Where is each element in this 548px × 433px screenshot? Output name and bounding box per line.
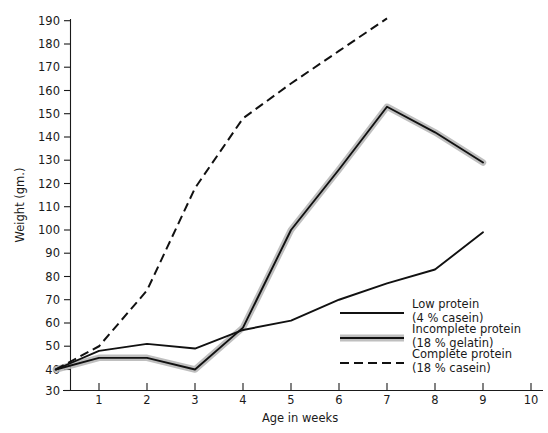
y-tick-160: 160 [38,84,60,98]
legend-label-low-protein: Low protein [412,297,479,311]
y-tick-180: 180 [38,37,60,51]
x-tick-5: 5 [287,393,294,407]
y-tick-110: 110 [38,200,60,214]
legend-label-incomplete-protein: Incomplete protein [412,322,521,336]
y-tick-60: 60 [45,316,60,330]
x-tick-8: 8 [431,393,438,407]
y-tick-140: 140 [38,130,60,144]
y-axis-ticks [64,21,71,391]
x-tick-1: 1 [95,393,102,407]
x-axis-title: Age in weeks [262,411,338,425]
x-tick-2: 2 [143,393,150,407]
y-tick-80: 80 [45,270,60,284]
x-axis-tick-labels: 1 2 3 4 5 6 7 8 9 10 [95,393,538,407]
y-tick-50: 50 [45,339,60,353]
x-tick-9: 9 [479,393,486,407]
y-axis-title: Weight (gm.) [13,168,27,243]
chart-canvas: 190 180 170 160 150 140 130 120 110 100 … [0,0,548,433]
y-tick-90: 90 [45,246,60,260]
y-tick-150: 150 [38,107,60,121]
y-tick-30: 30 [45,384,60,398]
chart-legend: Low protein (4 % casein) Incomplete prot… [340,297,521,375]
growth-curve-chart: 190 180 170 160 150 140 130 120 110 100 … [0,0,548,433]
legend-label-complete-protein: Complete protein [412,347,512,361]
series-complete-protein-line [56,18,387,369]
y-axis-tick-labels: 190 180 170 160 150 140 130 120 110 100 … [38,14,60,398]
y-tick-130: 130 [38,153,60,167]
y-tick-170: 170 [38,60,60,74]
legend-sublabel-complete-protein: (18 % casein) [412,361,491,375]
x-tick-6: 6 [335,393,342,407]
y-tick-120: 120 [38,177,60,191]
x-axis-ticks [99,383,531,391]
y-tick-100: 100 [38,223,60,237]
y-tick-190: 190 [38,14,60,28]
x-tick-10: 10 [524,393,539,407]
x-tick-3: 3 [191,393,198,407]
x-tick-4: 4 [239,393,246,407]
y-tick-70: 70 [45,293,60,307]
x-tick-7: 7 [383,393,390,407]
